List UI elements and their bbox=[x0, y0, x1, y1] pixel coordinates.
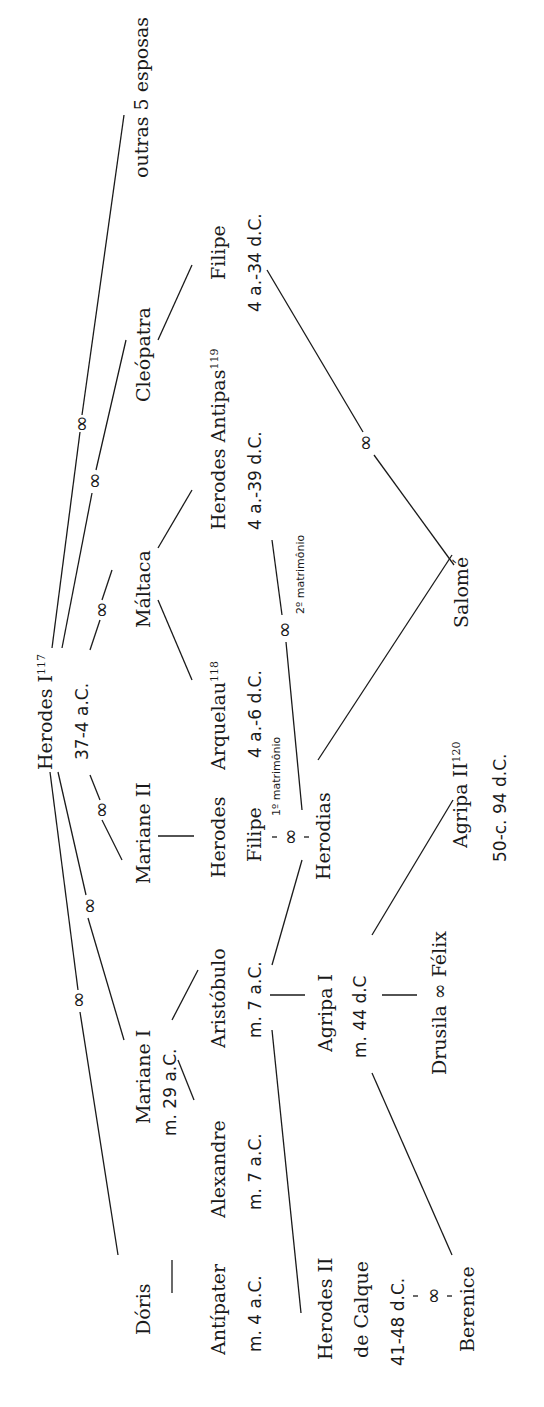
infinity-icon: ∞ bbox=[77, 898, 101, 915]
genealogy-diagram: ∞ ∞ ∞ ∞ ∞ ∞ ∞ ∞ ∞ ∞ Herodes I117 37-4 a.… bbox=[0, 0, 544, 1407]
node-herodes-ii-line2: de Calque bbox=[350, 1261, 372, 1358]
node-mariane-i: Mariane I bbox=[132, 1030, 154, 1124]
node-herodes-filipe-line1: Herodes bbox=[207, 797, 229, 879]
node-herodes-filipe-line2: Filipe bbox=[243, 807, 265, 862]
infinity-icon: ∞ bbox=[278, 829, 302, 846]
node-drusila-felix: Drusila ∞ Félix bbox=[428, 931, 450, 1075]
node-herodes-antipas-dates: 4 a.-39 d.C. bbox=[245, 431, 265, 530]
node-aristobulo: Aristóbulo bbox=[207, 948, 229, 1049]
node-antipater-dates: m. 4 a.C. bbox=[245, 1275, 265, 1352]
node-maltaca: Máltaca bbox=[132, 550, 154, 628]
node-berenice: Berenice bbox=[456, 1266, 478, 1352]
infinity-icon: ∞ bbox=[69, 416, 93, 433]
node-agripa-i: Agripa I bbox=[314, 974, 336, 1053]
node-herodes-i-dates: 37-4 a.C. bbox=[72, 683, 92, 760]
node-aristobulo-dates: m. 7 a.C. bbox=[245, 961, 265, 1038]
node-salome: Salomé bbox=[450, 557, 472, 628]
node-outras-esposas: outras 5 esposas bbox=[130, 17, 152, 178]
label-first-marriage: 1º matrimônio bbox=[270, 737, 283, 816]
infinity-icon: ∞ bbox=[66, 992, 90, 1009]
node-arquelau: Arquelau118 bbox=[207, 661, 229, 771]
node-alexandre: Alexandre bbox=[207, 1120, 229, 1219]
infinity-icon: ∞ bbox=[421, 1288, 445, 1305]
node-antipater: Antípater bbox=[207, 1263, 229, 1356]
node-mariane-ii: Mariane II bbox=[132, 782, 154, 884]
node-agripa-ii: Agripa II120 bbox=[449, 741, 471, 849]
node-cleopatra: Cleópatra bbox=[132, 307, 154, 402]
node-filipe-dates: 4 a.-34 d.C. bbox=[245, 213, 265, 312]
infinity-icon: ∞ bbox=[89, 602, 113, 619]
node-herodes-ii-dates: 41-48 d.C. bbox=[388, 1278, 408, 1366]
node-herodes-ii: Herodes II bbox=[314, 1257, 336, 1360]
node-arquelau-dates: 4 a.-6 d.C. bbox=[245, 670, 265, 758]
node-mariane-i-dates: m. 29 a.C. bbox=[160, 1049, 180, 1137]
label-second-marriage: 2º matrimônio bbox=[294, 535, 307, 614]
node-herodes-i: Herodes I117 bbox=[34, 654, 56, 770]
infinity-icon: ∞ bbox=[353, 435, 377, 452]
infinity-icon: ∞ bbox=[89, 802, 113, 819]
node-filipe: Filipe bbox=[207, 225, 229, 280]
node-alexandre-dates: m. 7 a.C. bbox=[245, 1133, 265, 1210]
node-agripa-ii-dates: 50-c. 94 d.C. bbox=[490, 754, 510, 862]
infinity-icon: ∞ bbox=[272, 622, 296, 639]
node-herodes-antipas: Herodes Antipas119 bbox=[207, 349, 229, 530]
infinity-icon: ∞ bbox=[82, 473, 106, 490]
node-agripa-i-dates: m. 44 d.C bbox=[350, 976, 370, 1058]
node-doris: Dóris bbox=[132, 1283, 154, 1335]
node-herodias: Herodias bbox=[312, 792, 334, 880]
